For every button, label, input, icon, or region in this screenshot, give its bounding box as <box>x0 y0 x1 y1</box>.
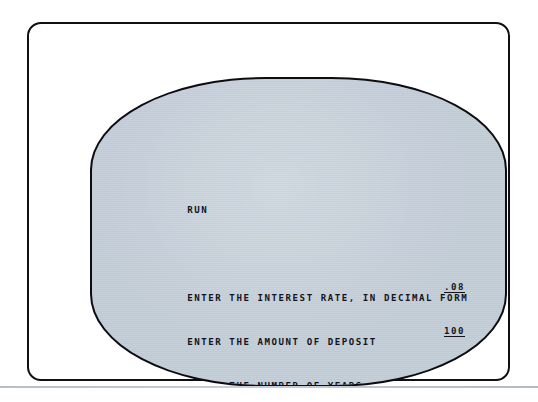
terminal-line-prompt-years: ENTER THE NUMBER OF YEARS 3 <box>131 370 491 381</box>
run-command-label: RUN <box>187 205 208 216</box>
value-slot-years: 3 <box>444 370 451 381</box>
value-slot-interest-rate: .08 <box>444 282 465 293</box>
entered-value-years[interactable]: 3 <box>444 370 451 381</box>
monitor-frame: RUN ENTER THE INTEREST RATE, IN DECIMAL … <box>27 22 510 381</box>
entered-value-interest-rate[interactable]: .08 <box>444 282 465 293</box>
entered-value-deposit[interactable]: 100 <box>444 326 465 337</box>
prompt-label-deposit: ENTER THE AMOUNT OF DEPOSIT <box>187 337 377 348</box>
bottom-divider-rule <box>0 386 538 388</box>
terminal-line-prompt-deposit: ENTER THE AMOUNT OF DEPOSIT 100 <box>131 326 491 337</box>
prompt-label-interest-rate: ENTER THE INTEREST RATE, IN DECIMAL FORM <box>187 293 468 304</box>
value-slot-deposit: 100 <box>444 326 465 337</box>
terminal-line-prompt-interest-rate: ENTER THE INTEREST RATE, IN DECIMAL FORM… <box>131 282 491 293</box>
terminal-line-command: RUN <box>131 194 491 205</box>
terminal-output-text: RUN ENTER THE INTEREST RATE, IN DECIMAL … <box>131 161 491 387</box>
terminal-blank-line <box>131 238 491 249</box>
crt-screen: RUN ENTER THE INTEREST RATE, IN DECIMAL … <box>90 77 507 387</box>
